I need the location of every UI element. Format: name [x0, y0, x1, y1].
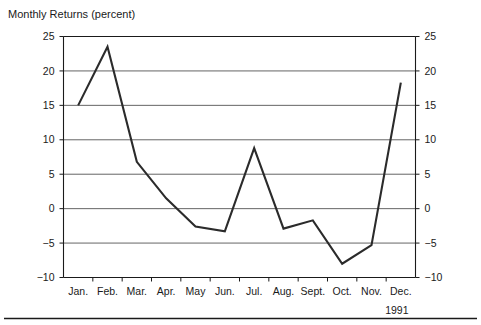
line-chart-svg: 2520151050−5−10 2520151050−5−10 Jan.Feb.… — [0, 0, 481, 325]
x-axis-label-aug: Aug. — [273, 285, 295, 297]
x-axis-label-may: May — [186, 285, 207, 297]
x-axis-label-jan: Jan. — [68, 285, 88, 297]
gridlines-group — [64, 37, 416, 244]
y-axis-left-label-25: 25 — [43, 30, 55, 42]
data-series-line — [78, 47, 401, 264]
x-axis-label-sept: Sept. — [301, 285, 326, 297]
y-axis-right-tickmarks — [416, 37, 420, 278]
x-axis-month-labels: Jan.Feb.Mar.Apr.MayJun.Jul.Aug.Sept.Oct.… — [68, 285, 411, 297]
y-axis-right-label-10: 10 — [425, 133, 437, 145]
x-axis-label-feb: Feb. — [97, 285, 118, 297]
y-axis-right-label-15: 15 — [425, 99, 437, 111]
year-label: 1991 — [385, 304, 409, 316]
y-axis-right-label-25: 25 — [425, 30, 437, 42]
y-axis-left-label-0: 0 — [49, 202, 55, 214]
x-axis-label-mar: Mar. — [127, 285, 147, 297]
y-axis-left-label--10: −10 — [37, 271, 55, 283]
y-axis-right-label--5: −5 — [425, 237, 437, 249]
plot-area-wrapper: 2520151050−5−10 2520151050−5−10 Jan.Feb.… — [0, 0, 481, 325]
x-axis-label-apr: Apr. — [157, 285, 176, 297]
y-axis-right-label-20: 20 — [425, 65, 437, 77]
x-axis-label-jun: Jun. — [215, 285, 235, 297]
y-axis-right-label-5: 5 — [425, 168, 431, 180]
y-axis-left-labels: 2520151050−5−10 — [37, 30, 55, 283]
y-axis-left-label--5: −5 — [43, 237, 55, 249]
x-axis-label-jul: Jul. — [246, 285, 262, 297]
x-axis-label-dec: Dec. — [390, 285, 412, 297]
y-axis-right-labels: 2520151050−5−10 — [425, 30, 443, 283]
figure-container: Monthly Returns (percent) 2520151050−5−1… — [0, 0, 481, 325]
y-axis-left-tickmarks — [60, 37, 64, 278]
y-axis-left-label-15: 15 — [43, 99, 55, 111]
x-axis-tickmarks — [93, 278, 386, 282]
y-axis-left-label-10: 10 — [43, 133, 55, 145]
x-axis-label-oct: Oct. — [333, 285, 352, 297]
x-axis-label-nov: Nov. — [361, 285, 382, 297]
y-axis-left-label-20: 20 — [43, 65, 55, 77]
y-axis-right-label-0: 0 — [425, 202, 431, 214]
y-axis-right-label--10: −10 — [425, 271, 443, 283]
y-axis-left-label-5: 5 — [49, 168, 55, 180]
